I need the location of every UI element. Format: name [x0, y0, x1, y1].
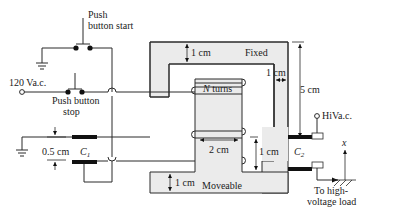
- hiv-label: HiVa.c.: [322, 110, 352, 121]
- hiv-terminal-icon: [315, 114, 320, 119]
- dim-cap-label: 0.5 cm: [42, 146, 69, 157]
- dim-width-label: 2 cm: [209, 144, 229, 155]
- moveable-label: Moveable: [202, 180, 243, 191]
- fixed-label: Fixed: [245, 47, 268, 58]
- switch-contacts: [65, 45, 92, 94]
- c1-label: C1: [80, 146, 90, 159]
- axis-x-label: x: [341, 137, 347, 148]
- load-label-2: voltage load: [307, 196, 356, 207]
- n-turns-label: N turns: [202, 83, 232, 94]
- source-terminal-icon: [20, 90, 25, 95]
- dim-height-label: 5 cm: [300, 84, 320, 95]
- c1-plate-bottom: [72, 160, 97, 164]
- source-label: 120 Va.c.: [9, 77, 46, 88]
- push-start-label-2: button start: [88, 20, 133, 31]
- push-stop-label-1: Push button: [52, 95, 100, 106]
- c2-plate-bottom: [288, 167, 312, 171]
- electromechanical-diagram: Push button start 120 Va.c. Push button …: [0, 0, 398, 214]
- dim-right-label: 1 cm: [266, 67, 286, 78]
- load-label-1: To high-: [314, 185, 348, 196]
- dim-bottom-label: 1 cm: [175, 177, 195, 188]
- c1-plate-top: [72, 135, 97, 139]
- dim-top-label: 1 cm: [191, 47, 211, 58]
- c2-label: C2: [294, 146, 305, 159]
- push-stop-label-2: stop: [63, 106, 80, 117]
- dim-gap-label: 1 cm: [259, 146, 279, 157]
- push-start-label-1: Push: [88, 9, 107, 20]
